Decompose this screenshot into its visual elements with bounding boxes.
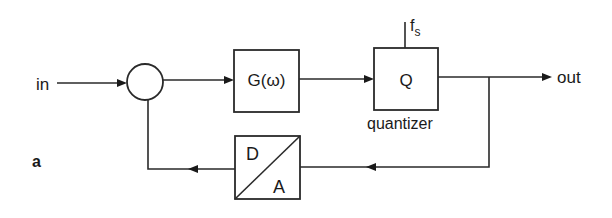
quantizer-input-arrow-icon	[364, 75, 374, 83]
input-label: in	[36, 75, 49, 94]
quantizer-label: Q	[399, 71, 412, 90]
feedback-arrow-left-icon	[188, 165, 198, 173]
output-arrow-icon	[542, 73, 552, 81]
filter-input-arrow-icon	[224, 76, 234, 84]
feedback-wire-left	[148, 100, 235, 169]
output-label: out	[557, 68, 581, 87]
summing-junction	[127, 64, 163, 100]
block-diagram: in G(ω) Q quantizer fs out D A a	[0, 0, 612, 218]
feedback-arrow-right-icon	[366, 163, 376, 171]
clock-label: fs	[410, 17, 420, 39]
input-arrow-icon	[117, 79, 127, 87]
subfigure-label: a	[32, 153, 41, 170]
dac-label-top: D	[246, 144, 259, 164]
filter-label: G(ω)	[248, 71, 286, 90]
dac-label-bottom: A	[273, 177, 285, 197]
quantizer-caption: quantizer	[367, 115, 433, 132]
